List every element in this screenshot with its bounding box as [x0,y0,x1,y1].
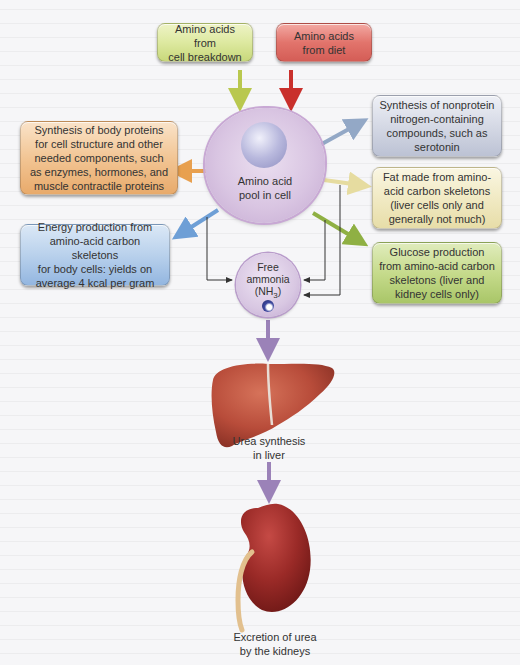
kidney-icon [241,504,311,612]
kidney-label-line: Excretion of urea [215,630,335,644]
liver-label: Urea synthesis in liver [219,434,319,462]
kidney-label-line: by the kidneys [215,644,335,658]
kidney-label: Excretion of urea by the kidneys [215,630,335,658]
liver-illustration [0,0,520,665]
liver-label-line: in liver [219,448,319,462]
liver-label-line: Urea synthesis [219,434,319,448]
